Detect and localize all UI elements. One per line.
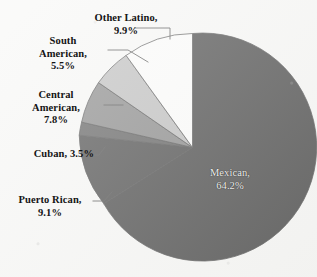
pie-label-central-american-line1: Central (2, 89, 110, 102)
pie-label-central-american-line2: American, (2, 102, 110, 115)
pie-label-mexican: Mexican, 64.2% (183, 167, 277, 192)
pie-label-other-latino-line1: Other Latino, (74, 12, 178, 25)
pie-label-cuban-line1: Cuban, 3.5% (2, 148, 94, 161)
pie-label-other-latino: Other Latino, 9.9% (74, 12, 178, 37)
pie-label-central-american: Central American, 7.8% (2, 89, 110, 127)
pie-label-south-american-line1: South (12, 35, 114, 48)
pie-label-mexican-line1: Mexican, (183, 167, 277, 180)
pie-label-south-american: South American, 5.5% (12, 35, 114, 73)
pie-chart-figure: Other Latino, 9.9% South American, 5.5% … (0, 0, 317, 277)
pie-label-south-american-line2: American, (12, 48, 114, 61)
pie-label-puerto-rican: Puerto Rican, 9.1% (2, 194, 98, 219)
pie-label-puerto-rican-line1: Puerto Rican, (2, 194, 98, 207)
pie-label-mexican-line2: 64.2% (183, 180, 277, 193)
pie-label-south-american-line3: 5.5% (12, 60, 114, 73)
pie-label-central-american-line3: 7.8% (2, 114, 110, 127)
pie-label-puerto-rican-line2: 9.1% (2, 207, 98, 220)
pie-label-cuban: Cuban, 3.5% (2, 148, 94, 161)
